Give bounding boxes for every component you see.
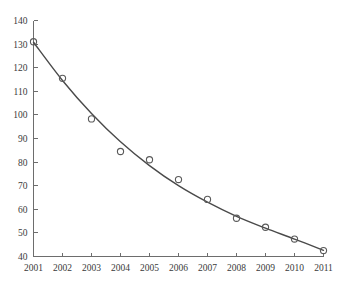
y-axis-tick-labels: 405060708090100110120130140 bbox=[13, 16, 28, 262]
fitted-curve bbox=[34, 42, 324, 250]
x-tick-label: 2011 bbox=[314, 263, 333, 273]
axis-frame bbox=[34, 21, 324, 257]
y-tick-label: 50 bbox=[18, 228, 28, 238]
data-point-marker bbox=[88, 116, 94, 122]
x-tick-label: 2001 bbox=[24, 263, 43, 273]
y-tick-label: 110 bbox=[14, 87, 28, 97]
x-tick-label: 2006 bbox=[169, 263, 188, 273]
y-tick-label: 140 bbox=[13, 16, 28, 26]
scatter-plot: 405060708090100110120130140 200120022003… bbox=[0, 0, 353, 284]
x-tick-label: 2002 bbox=[53, 263, 72, 273]
y-tick-label: 40 bbox=[18, 252, 28, 262]
y-tick-label: 130 bbox=[13, 40, 28, 50]
y-axis-tick-marks bbox=[34, 21, 38, 257]
y-tick-label: 70 bbox=[18, 181, 28, 191]
x-axis-tick-labels: 2001200220032004200520062007200820092010… bbox=[24, 263, 333, 273]
x-tick-label: 2004 bbox=[111, 263, 130, 273]
y-tick-label: 120 bbox=[13, 63, 28, 73]
data-point-marker bbox=[117, 148, 123, 154]
x-tick-label: 2005 bbox=[140, 263, 159, 273]
chart-container: 405060708090100110120130140 200120022003… bbox=[0, 0, 353, 284]
x-tick-label: 2009 bbox=[256, 263, 275, 273]
data-point-marker bbox=[175, 176, 181, 182]
data-point-markers bbox=[30, 39, 326, 254]
y-tick-label: 80 bbox=[18, 158, 28, 168]
x-tick-label: 2007 bbox=[198, 263, 217, 273]
x-tick-label: 2003 bbox=[82, 263, 101, 273]
y-tick-label: 90 bbox=[18, 134, 28, 144]
x-tick-label: 2008 bbox=[227, 263, 246, 273]
y-tick-label: 100 bbox=[13, 110, 28, 120]
y-tick-label: 60 bbox=[18, 205, 28, 215]
data-point-marker bbox=[146, 157, 152, 163]
x-axis-tick-marks bbox=[34, 253, 324, 257]
x-tick-label: 2010 bbox=[285, 263, 304, 273]
